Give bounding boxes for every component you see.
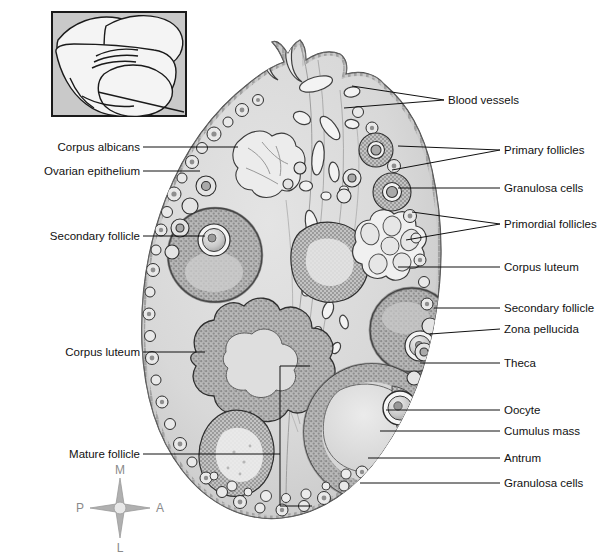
label-corpus-albicans: Corpus albicans bbox=[58, 141, 141, 153]
label-oocyte: Oocyte bbox=[504, 404, 540, 416]
antral-space bbox=[185, 252, 243, 292]
label-corpus-luteum-right: Corpus luteum bbox=[504, 261, 579, 273]
compass-label-posterior: P bbox=[76, 501, 84, 515]
ovary-specimen-shape bbox=[98, 65, 172, 116]
corpus-albicans bbox=[233, 131, 305, 197]
orientation-inset bbox=[52, 12, 186, 116]
label-mature-follicle: Mature follicle bbox=[69, 448, 140, 460]
label-primary-follicles: Primary follicles bbox=[504, 144, 585, 156]
label-corpus-luteum-left: Corpus luteum bbox=[65, 346, 140, 358]
figure-canvas: Corpus albicansOvarian epitheliumSeconda… bbox=[0, 0, 601, 556]
compass-label-anterior: A bbox=[156, 501, 164, 515]
primary-follicle bbox=[165, 245, 179, 259]
primary-follicle bbox=[182, 198, 198, 214]
label-zona-pellucida: Zona pellucida bbox=[504, 323, 579, 335]
antrum-space bbox=[306, 239, 354, 286]
label-blood-vessels: Blood vessels bbox=[448, 94, 519, 106]
label-theca: Theca bbox=[504, 357, 537, 369]
label-cumulus-mass: Cumulus mass bbox=[504, 425, 580, 437]
primary-follicle bbox=[283, 179, 293, 189]
compass-hub bbox=[114, 502, 126, 514]
label-ovarian-epithelium: Ovarian epithelium bbox=[44, 165, 140, 177]
ovary-cross-section-diagram: Corpus albicansOvarian epitheliumSeconda… bbox=[0, 0, 601, 556]
oocyte-nucleus bbox=[208, 234, 216, 242]
compass-label-superior: M bbox=[115, 463, 125, 477]
label-primordial-follicles: Primordial follicles bbox=[504, 218, 597, 230]
primary-follicle bbox=[294, 162, 306, 174]
label-granulosa-cells-bottom: Granulosa cells bbox=[504, 477, 584, 489]
label-secondary-follicle-left: Secondary follicle bbox=[50, 230, 140, 242]
compass-label-inferior: L bbox=[117, 541, 124, 555]
primary-follicle bbox=[337, 189, 351, 203]
blood-vessel bbox=[321, 192, 331, 200]
oocyte-nucleus bbox=[394, 402, 402, 410]
label-granulosa-cells-top: Granulosa cells bbox=[504, 182, 584, 194]
label-antrum: Antrum bbox=[504, 452, 541, 464]
label-secondary-follicle-right: Secondary follicle bbox=[504, 302, 594, 314]
blood-vessel bbox=[300, 181, 313, 191]
